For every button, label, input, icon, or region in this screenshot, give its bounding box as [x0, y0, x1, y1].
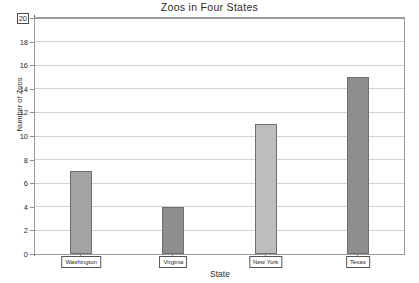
y-tick: 10 — [0, 132, 34, 141]
y-tick: 0 — [0, 250, 34, 259]
y-tick-label: 6 — [24, 179, 28, 188]
y-tick: 18 — [0, 38, 34, 47]
y-tick-label: 18 — [20, 38, 28, 47]
y-tick-label: 14 — [20, 85, 28, 94]
y-tick: 4 — [0, 203, 34, 212]
y-tick: 14 — [0, 85, 34, 94]
bar[interactable] — [162, 207, 184, 254]
y-tick: 20 — [0, 14, 34, 23]
y-tick: 6 — [0, 179, 34, 188]
x-tick-label: Washington — [61, 256, 100, 268]
y-tick-label: 2 — [24, 226, 28, 235]
x-axis-tick-labels: WashingtonVirginiaNew YorkTexas — [34, 256, 405, 269]
plot-inner — [35, 18, 404, 254]
gridline — [35, 18, 404, 19]
y-tick-label: 12 — [20, 108, 28, 117]
x-axis-title: State — [34, 269, 406, 279]
y-tick-label: 8 — [24, 156, 28, 165]
y-tick-label: 20 — [17, 13, 29, 24]
y-tick-label: 10 — [20, 132, 28, 141]
y-tick-label: 16 — [20, 61, 28, 70]
y-tick-label: 4 — [24, 203, 28, 212]
bar-chart: Zoos in Four States Number of Zoos 02468… — [0, 0, 419, 283]
gridline — [35, 41, 404, 42]
bar[interactable] — [347, 77, 369, 254]
y-tick: 2 — [0, 226, 34, 235]
chart-title: Zoos in Four States — [0, 1, 419, 13]
x-tick-label: Virginia — [159, 256, 187, 268]
y-tick: 8 — [0, 156, 34, 165]
y-tick: 12 — [0, 108, 34, 117]
bar[interactable] — [255, 124, 277, 254]
x-tick-label: New York — [249, 256, 282, 268]
x-tick-label: Texas — [346, 256, 370, 268]
y-tick: 16 — [0, 61, 34, 70]
y-axis-tick-labels: 02468101214161820 — [0, 17, 34, 255]
y-tick-label: 0 — [24, 250, 28, 259]
gridline — [35, 65, 404, 66]
plot-area — [34, 17, 405, 255]
bar[interactable] — [70, 171, 92, 254]
